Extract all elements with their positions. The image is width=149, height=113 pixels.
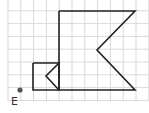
point-e-label: E xyxy=(11,96,18,107)
figure-svg xyxy=(0,0,149,113)
point-e-dot xyxy=(17,87,22,92)
grid-lines xyxy=(8,0,149,101)
notch-chevron xyxy=(46,63,59,90)
grid-figure: E xyxy=(0,0,149,113)
